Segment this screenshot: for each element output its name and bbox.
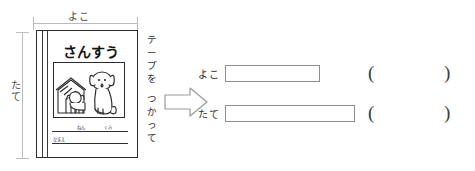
unit-paren-close-width: ): [444, 63, 450, 82]
dimension-label-height: たて: [10, 80, 21, 102]
notebook-field-class: くみ: [104, 125, 112, 130]
answer-label-width: よこ: [198, 66, 225, 81]
dimension-tick-top: [16, 32, 29, 33]
dog-and-doghouse-icon: [54, 63, 124, 117]
notebook-ruled-line-1: [52, 131, 128, 132]
answer-row-width: よこ: [198, 63, 320, 83]
instruction-line-1: テープを: [144, 33, 160, 85]
answer-input-height[interactable]: [225, 105, 355, 122]
notebook-ruled-line-2: [52, 143, 128, 144]
answer-row-height: たて: [198, 103, 355, 123]
dimension-label-width: よこ: [68, 8, 90, 23]
answer-input-width[interactable]: [225, 65, 320, 82]
unit-paren-close-height: ): [444, 103, 450, 122]
notebook-field-year: ねん: [77, 125, 85, 130]
instruction-spacer: [144, 85, 160, 92]
worksheet-canvas: よこ たて さんすう: [0, 0, 475, 171]
notebook-title: さんすう: [49, 41, 133, 61]
answer-label-height: たて: [198, 106, 225, 121]
notebook-illustration: さんすう: [36, 30, 138, 158]
dimension-tick-right: [137, 17, 138, 30]
instruction-vertical-text: テープを つかって: [144, 33, 160, 144]
notebook-picture-frame: [53, 62, 125, 118]
dimension-tick-left: [33, 17, 34, 30]
notebook-cover: さんすう: [49, 35, 133, 153]
dimension-tick-bottom: [16, 158, 29, 159]
dimension-line-vertical: [22, 32, 23, 158]
instruction-line-2: つかって: [144, 92, 160, 144]
unit-paren-open-height: (: [368, 103, 374, 122]
notebook-spine: [42, 31, 48, 157]
dimension-line-horizontal: [33, 23, 137, 24]
unit-paren-open-width: (: [368, 63, 374, 82]
notebook-field-name: なまえ: [53, 137, 65, 142]
